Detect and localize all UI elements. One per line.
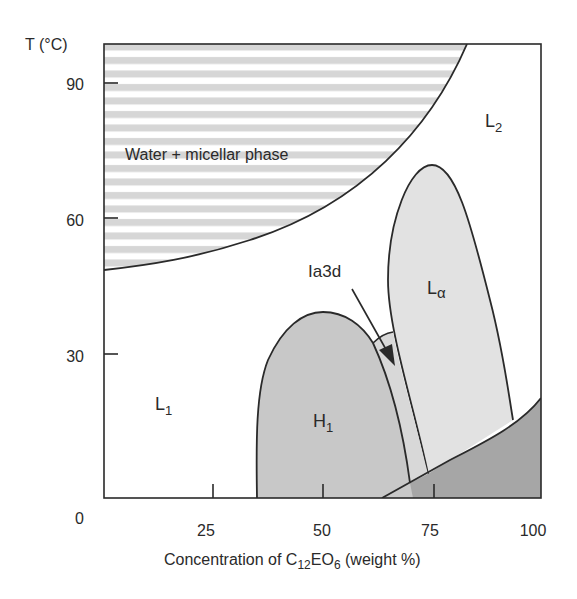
label-l1-main: L [155,394,165,414]
label-ia3d: Ia3d [308,262,341,281]
y-tick-label-90: 90 [66,76,84,93]
x-axis-title-sub1: 12 [297,558,311,572]
y-tick-label-0: 0 [75,510,84,527]
x-axis-title-mid: EO [311,551,334,568]
label-l1: L1 [155,394,172,418]
label-l2-sub: 2 [495,120,502,135]
y-tick-label-60: 60 [66,212,84,229]
label-water-micellar: Water + micellar phase [125,146,289,163]
x-tick-label-50: 50 [313,522,331,539]
y-tick-label-30: 30 [66,348,84,365]
label-l-alpha-main: L [427,278,437,298]
x-axis-title: Concentration of C12EO6 (weight %) [164,551,421,572]
label-h1-sub: 1 [326,420,333,435]
x-axis-title-post: (weight %) [341,551,421,568]
label-l2: L2 [485,111,502,135]
x-tick-label-75: 75 [421,522,439,539]
x-axis-title-pre: Concentration of C [164,551,297,568]
x-tick-label-100: 100 [520,522,547,539]
x-tick-label-25: 25 [197,522,215,539]
label-l1-sub: 1 [165,403,172,418]
label-h1-main: H [313,411,326,431]
phase-diagram-chart: T (°C) 90 60 30 0 25 50 75 100 Concentra… [0,0,577,599]
label-l-alpha-sub: α [437,284,446,301]
label-l2-main: L [485,111,495,131]
y-axis-title: T (°C) [25,36,68,53]
